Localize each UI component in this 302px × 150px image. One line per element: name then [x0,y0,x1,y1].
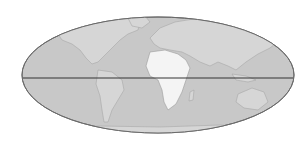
map-svg [0,0,302,150]
world-map [0,0,302,150]
